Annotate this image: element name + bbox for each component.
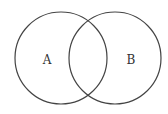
set-a-circle [15,12,107,104]
set-b-label: B [127,53,136,67]
set-a-label: A [42,53,52,67]
set-b-circle [69,12,161,104]
venn-diagram: A B [0,0,168,114]
